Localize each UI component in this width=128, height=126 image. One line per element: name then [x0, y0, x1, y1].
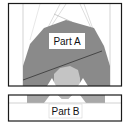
- panel-bottom: Part B: [9, 95, 122, 121]
- part-b-label: Part B: [52, 106, 80, 117]
- panel-top: Part A: [9, 4, 122, 87]
- part-a-label: Part A: [53, 36, 81, 47]
- diagram-canvas: Part A Part B: [0, 0, 128, 126]
